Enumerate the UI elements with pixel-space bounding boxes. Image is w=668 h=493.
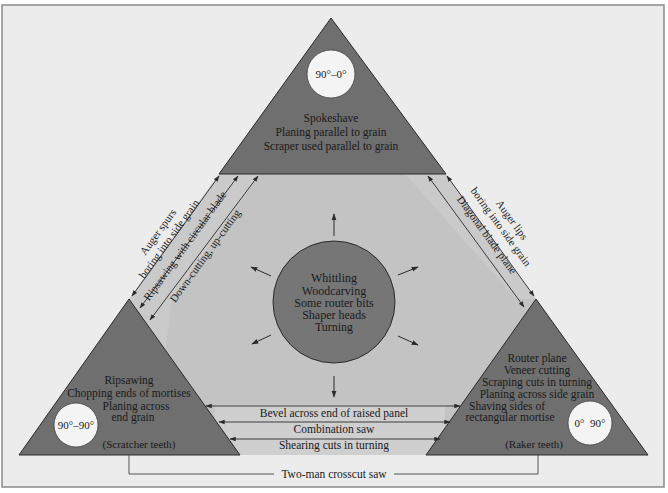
cutting-angles-diagram: 90°–0° Spokeshave Planing parallel to gr… (0, 0, 668, 493)
left-triangle-line-1: Ripsawing (104, 374, 153, 387)
top-angle-label: 90°–0° (316, 68, 347, 80)
right-triangle-line-6: rectangular mortise (465, 411, 554, 424)
bottom-band-label-3: Shearing cuts in turning (279, 439, 389, 452)
left-angle-label: 90°–90° (58, 419, 94, 431)
left-triangle-line-2: Chopping ends of mortises (67, 387, 191, 400)
left-triangle-line-4: end grain (111, 411, 154, 424)
bottom-band-label-2: Combination saw (294, 423, 376, 435)
top-triangle-line-1: Spokeshave (304, 112, 359, 125)
right-teeth-label: (Raker teeth) (505, 438, 563, 451)
top-triangle-line-2: Planing parallel to grain (276, 126, 387, 139)
left-teeth-label: (Scratcher teeth) (103, 438, 176, 451)
outer-connector-label: Two-man crosscut saw (281, 468, 387, 480)
top-triangle-line-3: Scraper used parallel to grain (264, 140, 399, 153)
center-line-5: Turning (315, 320, 353, 334)
bottom-band-label-1: Bevel across end of raised panel (260, 407, 408, 420)
right-angle-label: 0° 90° (575, 417, 606, 429)
center-line-1: Whittling (311, 271, 357, 285)
